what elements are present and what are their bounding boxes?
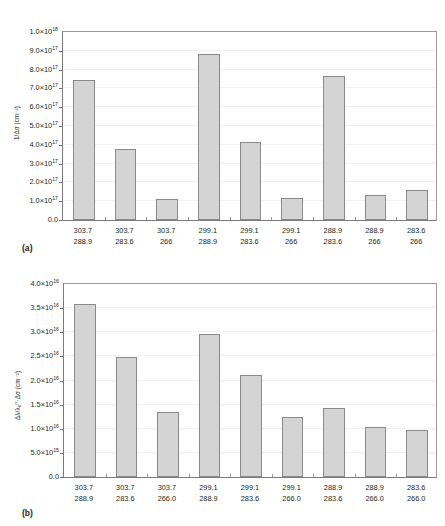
y-tick-label: 6.0×1017	[29, 103, 58, 111]
x-tick-label-line1: 303.7	[62, 226, 104, 237]
x-tick-mark	[230, 217, 231, 220]
y-tick-mark	[59, 145, 62, 146]
x-tick-label-line2: 266	[354, 237, 396, 248]
x-tick-label-line2: 283.6	[312, 494, 354, 505]
bar	[323, 76, 345, 220]
x-tick-mark	[106, 474, 107, 477]
y-tick-label: 4.0×1017	[29, 141, 58, 149]
x-tick-label-line2: 288.9	[187, 237, 229, 248]
x-tick-mark	[355, 217, 356, 220]
x-tick-label-line2: 288.9	[63, 494, 105, 505]
y-tick-mark	[59, 126, 62, 127]
x-tick-mark	[189, 474, 190, 477]
x-tick-label-line2: 283.6	[105, 494, 147, 505]
panel-a-plot-area	[62, 31, 437, 221]
x-tick-label: 303.7288.9	[63, 483, 105, 504]
bar	[156, 199, 178, 220]
x-tick-mark	[105, 217, 106, 220]
y-tick-mark	[60, 477, 63, 478]
x-tick-label-line1: 288.9	[354, 483, 396, 494]
bar	[116, 357, 138, 477]
y-tick-label: 0.0	[49, 473, 59, 481]
x-tick-label-line2: 288.9	[62, 237, 104, 248]
x-tick-label-line2: 266.0	[395, 494, 437, 505]
x-tick-label-line2: 283.6	[312, 237, 354, 248]
bar	[365, 427, 387, 477]
y-tick-label: 3.0×1017	[29, 160, 58, 168]
x-tick-mark	[396, 474, 397, 477]
x-tick-label: 288.9283.6	[312, 483, 354, 504]
bar	[240, 375, 262, 477]
y-tick-mark	[60, 429, 63, 430]
panel-a-y-axis-label: 1/Δσ (cm⁻²)	[13, 78, 20, 168]
y-tick-label: 8.0×1017	[29, 66, 58, 74]
bar	[115, 149, 137, 220]
bar	[73, 80, 95, 220]
panel-a-bar-series	[63, 32, 436, 220]
x-tick-mark	[313, 474, 314, 477]
x-tick-label-line1: 299.1	[187, 226, 229, 237]
bar	[240, 142, 262, 220]
x-tick-mark	[271, 217, 272, 220]
x-tick-mark	[355, 474, 356, 477]
y-tick-mark	[59, 51, 62, 52]
bar	[281, 198, 303, 220]
panel-b-plot-area	[63, 283, 437, 478]
y-tick-label: 2.0×1017	[29, 178, 58, 186]
x-tick-label-line1: 303.7	[145, 226, 187, 237]
y-tick-mark	[59, 70, 62, 71]
x-tick-label-line1: 299.1	[270, 226, 312, 237]
x-tick-mark	[147, 474, 148, 477]
bar	[323, 408, 345, 477]
x-tick-label: 299.1283.6	[229, 483, 271, 504]
x-tick-label: 283.6266.0	[395, 483, 437, 504]
y-tick-label: 0.0	[48, 216, 58, 224]
y-tick-mark	[60, 405, 63, 406]
x-tick-label: 299.1288.9	[187, 226, 229, 247]
y-tick-label: 2.5×1016	[30, 352, 59, 360]
x-tick-mark	[272, 474, 273, 477]
x-tick-mark	[188, 217, 189, 220]
x-tick-label-line2: 266	[145, 237, 187, 248]
x-tick-label-line1: 299.1	[188, 483, 230, 494]
y-tick-mark	[60, 453, 63, 454]
x-tick-label-line2: 288.9	[188, 494, 230, 505]
x-tick-label-line1: 299.1	[271, 483, 313, 494]
y-tick-label: 2.0×1016	[30, 377, 59, 385]
x-tick-label-line1: 288.9	[354, 226, 396, 237]
x-tick-label-line2: 266	[270, 237, 312, 248]
bar	[406, 190, 428, 220]
y-tick-mark	[59, 182, 62, 183]
x-tick-label: 303.7266.0	[146, 483, 188, 504]
y-tick-mark	[60, 308, 63, 309]
y-tick-mark	[60, 381, 63, 382]
x-tick-label-line1: 303.7	[146, 483, 188, 494]
x-tick-label-line2: 266	[395, 237, 437, 248]
y-tick-label: 3.5×1016	[30, 304, 59, 312]
x-tick-label: 299.1283.6	[229, 226, 271, 247]
panel-b-tag: (b)	[22, 508, 33, 518]
panel-a: 1/Δσ (cm⁻²) 1.0×10189.0×10178.0×10177.0×…	[0, 0, 445, 265]
x-tick-label: 288.9266	[354, 226, 396, 247]
x-tick-label-line1: 299.1	[229, 483, 271, 494]
x-tick-label-line2: 266.0	[271, 494, 313, 505]
panel-b: Δλ/λ₀ᶠᶠ·Δσ (cm⁻²) 4.0×10163.5×10163.0×10…	[0, 262, 445, 526]
bar	[74, 304, 96, 477]
y-tick-label: 9.0×1017	[29, 47, 58, 55]
x-tick-label-line2: 266.0	[146, 494, 188, 505]
x-tick-label: 303.7283.6	[105, 483, 147, 504]
y-tick-label: 5.0×1017	[29, 122, 58, 130]
figure-two-bar-charts: 1/Δσ (cm⁻²) 1.0×10189.0×10178.0×10177.0×…	[0, 0, 445, 526]
panel-a-tag: (a)	[22, 243, 33, 253]
y-tick-mark	[59, 88, 62, 89]
x-tick-mark	[396, 217, 397, 220]
x-tick-mark	[230, 474, 231, 477]
y-tick-label: 1.0×1017	[29, 197, 58, 205]
x-tick-label: 283.6266	[395, 226, 437, 247]
y-tick-label: 1.5×1016	[30, 401, 59, 409]
x-tick-label-line1: 283.6	[395, 483, 437, 494]
x-tick-label-line1: 303.7	[63, 483, 105, 494]
bar	[282, 417, 304, 477]
y-tick-mark	[59, 107, 62, 108]
x-tick-label-line1: 283.6	[395, 226, 437, 237]
